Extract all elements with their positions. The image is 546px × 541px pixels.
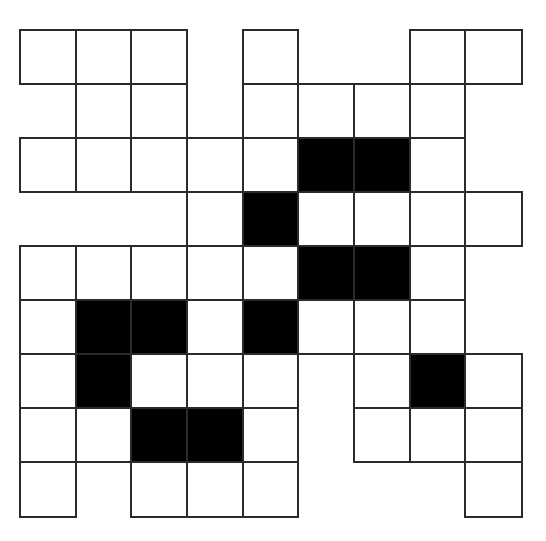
grid-cell[interactable] xyxy=(186,461,244,518)
grid-cell[interactable] xyxy=(242,137,299,193)
grid-cell[interactable] xyxy=(409,29,466,85)
grid-cell[interactable] xyxy=(186,191,244,247)
grid-cell[interactable] xyxy=(409,191,466,247)
grid-cell[interactable] xyxy=(242,461,299,518)
grid-cell[interactable] xyxy=(186,299,244,355)
grid-cell[interactable] xyxy=(75,137,132,193)
grid-cell[interactable] xyxy=(409,299,466,355)
grid-cell[interactable] xyxy=(130,137,188,193)
grid-cell[interactable] xyxy=(297,299,355,355)
grid-cell[interactable] xyxy=(19,245,77,301)
black-cell xyxy=(297,245,355,301)
black-cell xyxy=(353,245,411,301)
grid-cell[interactable] xyxy=(464,353,523,409)
grid-cell[interactable] xyxy=(242,245,299,301)
grid-cell[interactable] xyxy=(297,83,355,139)
grid-cell[interactable] xyxy=(130,353,188,409)
grid-cell[interactable] xyxy=(353,191,411,247)
grid-cell[interactable] xyxy=(464,29,523,85)
grid-cell[interactable] xyxy=(409,83,466,139)
grid-cell[interactable] xyxy=(186,245,244,301)
grid-cell[interactable] xyxy=(19,407,77,463)
grid-cell[interactable] xyxy=(409,245,466,301)
grid-cell[interactable] xyxy=(353,407,411,463)
grid-cell[interactable] xyxy=(75,245,132,301)
black-cell xyxy=(242,299,299,355)
grid-cell[interactable] xyxy=(464,407,523,463)
crossword-grid xyxy=(20,30,522,517)
grid-cell[interactable] xyxy=(19,299,77,355)
black-cell xyxy=(409,353,466,409)
grid-cell[interactable] xyxy=(75,407,132,463)
grid-cell[interactable] xyxy=(75,29,132,85)
black-cell xyxy=(75,299,132,355)
grid-cell[interactable] xyxy=(464,191,523,247)
grid-cell[interactable] xyxy=(130,461,188,518)
grid-cell[interactable] xyxy=(353,83,411,139)
grid-cell[interactable] xyxy=(130,29,188,85)
grid-cell[interactable] xyxy=(297,191,355,247)
grid-cell[interactable] xyxy=(19,461,77,518)
black-cell xyxy=(353,137,411,193)
grid-cell[interactable] xyxy=(186,353,244,409)
grid-cell[interactable] xyxy=(409,137,466,193)
grid-cell[interactable] xyxy=(353,353,411,409)
black-cell xyxy=(75,353,132,409)
black-cell xyxy=(242,191,299,247)
grid-cell[interactable] xyxy=(186,137,244,193)
grid-cell[interactable] xyxy=(242,29,299,85)
grid-cell[interactable] xyxy=(242,407,299,463)
grid-cell[interactable] xyxy=(130,83,188,139)
grid-cell[interactable] xyxy=(19,29,77,85)
grid-cell[interactable] xyxy=(353,299,411,355)
grid-cell[interactable] xyxy=(464,461,523,518)
grid-cell[interactable] xyxy=(242,353,299,409)
black-cell xyxy=(130,407,188,463)
grid-cell[interactable] xyxy=(130,245,188,301)
grid-cell[interactable] xyxy=(19,137,77,193)
grid-cell[interactable] xyxy=(409,407,466,463)
black-cell xyxy=(186,407,244,463)
grid-cell[interactable] xyxy=(242,83,299,139)
grid-cell[interactable] xyxy=(19,353,77,409)
black-cell xyxy=(297,137,355,193)
black-cell xyxy=(130,299,188,355)
grid-cell[interactable] xyxy=(75,83,132,139)
